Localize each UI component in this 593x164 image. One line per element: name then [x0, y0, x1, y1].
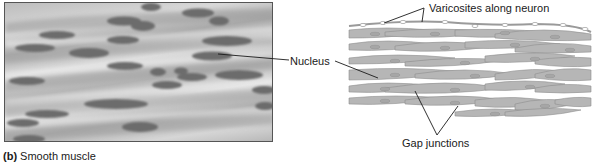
caption-letter: (b): [3, 150, 17, 162]
micrograph-nuclei: [5, 3, 273, 142]
nucleus-label: Nucleus: [290, 55, 330, 67]
gap-junctions-label: Gap junctions: [402, 137, 469, 149]
figure-caption: (b) Smooth muscle: [3, 150, 96, 162]
smooth-muscle-schematic: [345, 18, 593, 124]
varicosities-label: Varicosites along neuron: [429, 2, 549, 14]
smooth-muscle-micrograph: [4, 2, 273, 142]
smooth-muscle-cells-drawing: [345, 18, 593, 124]
caption-title: Smooth muscle: [20, 150, 96, 162]
